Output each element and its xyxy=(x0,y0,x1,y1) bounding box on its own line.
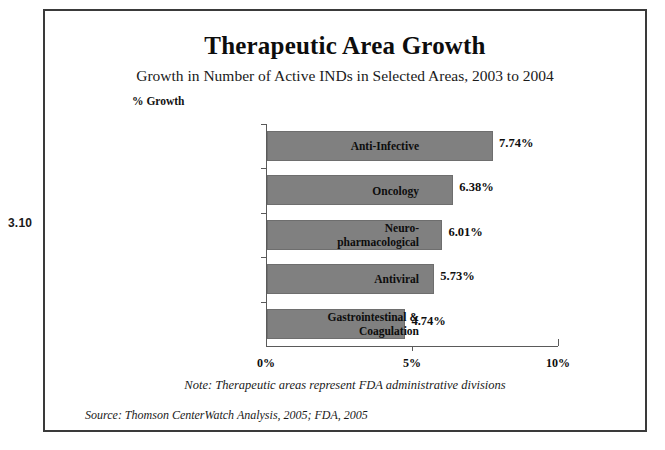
category-label-line: Neuro- xyxy=(229,221,419,235)
chart-note: Note: Therapeutic areas represent FDA ad… xyxy=(45,378,645,393)
chart-subtitle: Growth in Number of Active INDs in Selec… xyxy=(45,67,645,85)
category-label-line: Oncology xyxy=(229,184,419,198)
category-label: Oncology xyxy=(229,184,419,198)
chart-source: Source: Thomson CenterWatch Analysis, 20… xyxy=(85,408,368,423)
category-label-line: Antiviral xyxy=(229,272,419,286)
x-tick-label: 10% xyxy=(546,356,570,371)
category-label-line: pharmacological xyxy=(229,235,419,249)
x-axis-tick xyxy=(266,339,267,346)
x-axis-tick xyxy=(558,339,559,346)
axis-unit-label: % Growth xyxy=(132,95,185,107)
x-tick-label: 0% xyxy=(257,356,275,371)
chart-title: Therapeutic Area Growth xyxy=(45,32,645,60)
category-label-line: Coagulation xyxy=(229,324,419,338)
x-tick-label: 5% xyxy=(403,356,421,371)
category-label-line: Gastrointestinal & xyxy=(229,310,419,324)
y-axis-tick xyxy=(261,168,266,169)
category-label-line: Anti-Infective xyxy=(229,139,419,153)
category-label: Gastrointestinal &Coagulation xyxy=(229,310,419,338)
category-label: Antiviral xyxy=(229,272,419,286)
bar-value-label: 6.38% xyxy=(459,180,493,195)
chart-frame: Therapeutic Area Growth Growth in Number… xyxy=(43,9,647,432)
bar-value-label: 5.73% xyxy=(440,269,474,284)
category-label: Neuro-pharmacological xyxy=(229,221,419,249)
x-axis-tick xyxy=(412,346,413,351)
figure-number: 3.10 xyxy=(8,216,32,230)
y-axis-tick xyxy=(261,257,266,258)
category-label: Anti-Infective xyxy=(229,139,419,153)
y-axis-tick xyxy=(261,213,266,214)
y-axis-tick xyxy=(261,302,266,303)
y-axis-tick xyxy=(261,124,266,125)
bar-value-label: 7.74% xyxy=(499,136,533,151)
bar-value-label: 6.01% xyxy=(448,225,482,240)
